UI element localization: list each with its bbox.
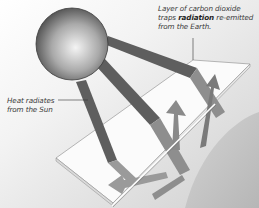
co2-label-radiation: radiation [178,13,214,22]
heat-label-line1: Heat radiates [7,96,77,105]
sun-sphere [36,8,108,80]
co2-layer-label: Layer of carbon dioxide traps radiation … [158,4,258,32]
co2-label-line2-pre: traps [158,13,178,22]
co2-label-line3: from the Earth. [158,22,258,31]
co2-label-line2-post: re-emitted [214,13,253,22]
co2-label-line1: Layer of carbon dioxide [158,4,258,13]
co2-label-line2: traps radiation re-emitted [158,13,258,22]
heat-label: Heat radiates from the Sun [7,96,77,114]
heat-label-line2: from the Sun [7,105,77,114]
